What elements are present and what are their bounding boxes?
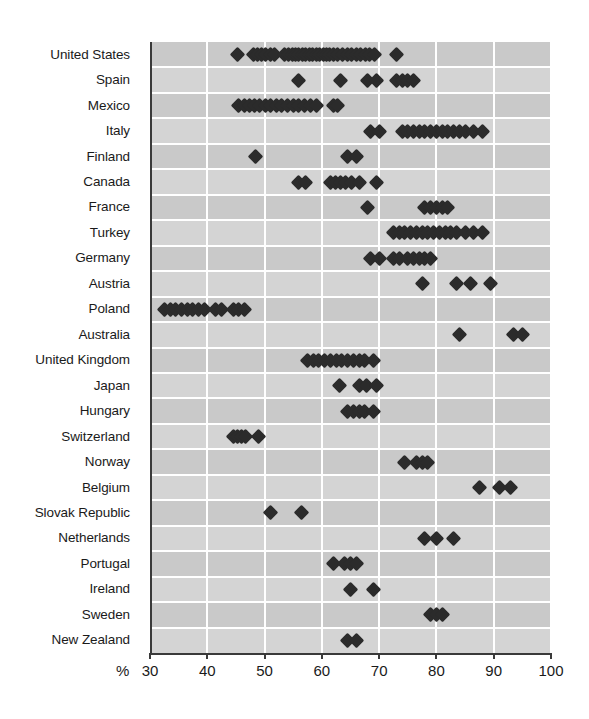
gridline [206,42,208,653]
row-separator [150,270,551,272]
row-band [150,118,551,143]
row-separator [150,194,551,196]
category-label: Switzerland [61,430,130,444]
plot-area [150,42,551,653]
row-separator [150,92,551,94]
row-band [150,526,551,551]
category-label: Japan [94,379,130,393]
row-band [150,67,551,92]
category-label: Portugal [81,557,130,571]
category-label: Norway [85,455,130,469]
x-tick-mark [206,653,208,659]
x-tick-label: 100 [538,662,563,679]
row-separator [150,397,551,399]
category-label: Hungary [80,404,130,418]
category-label: Spain [96,73,130,87]
row-band [150,246,551,271]
row-separator [150,321,551,323]
gridline [493,42,495,653]
x-tick-mark [550,653,552,659]
row-separator [150,448,551,450]
row-separator [150,296,551,298]
x-tick-label: 40 [199,662,216,679]
x-tick-mark [493,653,495,659]
row-separator [150,168,551,170]
category-label: France [89,200,130,214]
row-separator [150,576,551,578]
category-label: Slovak Republic [35,506,130,520]
x-tick-mark [378,653,380,659]
row-separator [150,117,551,119]
row-band [150,449,551,474]
x-tick-mark [321,653,323,659]
gridline [550,42,552,653]
row-band [150,475,551,500]
row-separator [150,219,551,221]
category-label: United States [50,48,130,62]
row-separator [150,601,551,603]
category-label: Austria [89,277,130,291]
percent-sign-label: % [116,662,129,679]
category-label: Poland [89,302,130,316]
category-label: Belgium [82,481,130,495]
x-tick-label: 30 [142,662,159,679]
row-band [150,500,551,525]
category-label: Italy [106,124,130,138]
row-separator [150,245,551,247]
y-axis-spine [150,42,152,653]
category-label: Canada [83,175,130,189]
category-label: Finland [86,150,130,164]
x-tick-mark [435,653,437,659]
row-separator [150,499,551,501]
row-band [150,602,551,627]
row-band [150,93,551,118]
row-band [150,373,551,398]
gridline [264,42,266,653]
row-band [150,424,551,449]
chart-figure: United StatesSpainMexicoItalyFinlandCana… [0,0,589,719]
row-band [150,322,551,347]
category-label: United Kingdom [35,353,130,367]
row-band [150,220,551,245]
row-separator [150,423,551,425]
row-separator [150,66,551,68]
row-separator [150,627,551,629]
row-band [150,195,551,220]
category-label: New Zealand [52,633,130,647]
row-separator [150,143,551,145]
x-tick-mark [149,653,151,659]
category-label: Netherlands [58,531,130,545]
x-tick-mark [264,653,266,659]
category-label: Sweden [82,608,130,622]
category-label: Australia [78,328,130,342]
row-separator [150,347,551,349]
category-label: Turkey [90,226,130,240]
category-label: Mexico [88,99,130,113]
category-label: Ireland [89,582,130,596]
row-separator [150,372,551,374]
x-tick-label: 90 [485,662,502,679]
x-tick-label: 60 [314,662,331,679]
x-axis: 30405060708090100 [150,653,551,683]
x-tick-label: 80 [428,662,445,679]
x-tick-label: 70 [371,662,388,679]
row-separator [150,525,551,527]
category-label: Germany [75,251,130,265]
row-separator [150,550,551,552]
row-separator [150,474,551,476]
x-tick-label: 50 [256,662,273,679]
gridline [321,42,323,653]
